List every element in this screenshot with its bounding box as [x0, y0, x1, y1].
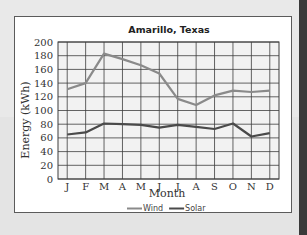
legend-label-solar: Solar — [185, 204, 206, 213]
y-tick-label: 0 — [47, 174, 53, 185]
x-tick-label: M — [136, 181, 146, 192]
x-tick-label: J — [64, 181, 69, 192]
x-tick-label: O — [229, 181, 237, 192]
legend-label-wind: Wind — [143, 204, 163, 213]
y-tick-label: 60 — [40, 132, 53, 143]
y-axis-label: Energy (kWh) — [19, 81, 32, 158]
chart-title: Amarillo, Texas — [128, 24, 210, 35]
x-tick-label: F — [82, 181, 89, 192]
x-tick-label: S — [211, 181, 218, 192]
y-tick-label: 20 — [40, 160, 53, 171]
y-tick-label: 80 — [40, 119, 53, 130]
legend: WindSolar — [127, 204, 206, 213]
y-tick-label: 140 — [34, 78, 53, 89]
y-tick-label: 160 — [34, 64, 53, 75]
x-axis-label: Month — [149, 187, 185, 200]
y-tick-label: 120 — [34, 91, 53, 102]
y-tick-label: 100 — [34, 105, 53, 116]
line-chart: Amarillo, Texas 020406080100120140160180… — [0, 0, 307, 235]
x-tick-label: A — [192, 181, 201, 192]
plot-area: 020406080100120140160180200JFMAMJJASOND — [34, 37, 279, 193]
x-tick-label: A — [118, 181, 127, 192]
y-tick-label: 40 — [40, 146, 53, 157]
x-tick-label: M — [99, 181, 109, 192]
y-tick-label: 200 — [34, 37, 53, 48]
x-tick-label: D — [266, 181, 274, 192]
y-tick-label: 180 — [34, 50, 53, 61]
x-tick-label: N — [247, 181, 256, 192]
